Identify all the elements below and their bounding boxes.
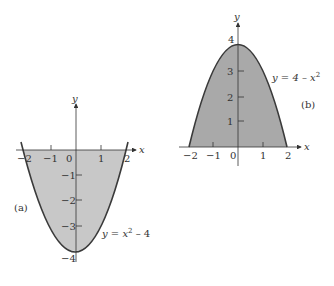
- y-tick-label-a: −1: [61, 170, 76, 181]
- y-tick-label-b: 2: [227, 92, 233, 103]
- figure-label-b: (b): [301, 99, 315, 110]
- x-axis-label-a: x: [139, 144, 145, 155]
- x-axis-label-b: x: [304, 141, 310, 152]
- diagram-canvas: x y −2 −1 0 1 2 −1 −2 −3 −4 (a) y = x2 –…: [0, 0, 334, 286]
- equation-a-base: y = x: [101, 228, 128, 239]
- figure-a: x y −2 −1 0 1 2 −1 −2 −3 −4 (a) y = x2 –…: [14, 93, 150, 264]
- x-tick-label-b: 0: [230, 150, 236, 161]
- x-tick-label-a: 1: [98, 153, 104, 164]
- equation-b: y = 4 – x2: [271, 71, 320, 83]
- x-tick-label-a: −2: [17, 153, 32, 164]
- figure-label-a: (a): [14, 202, 28, 213]
- x-tick-label-b: −1: [206, 150, 221, 161]
- y-tick-label-a: −3: [61, 221, 76, 232]
- equation-a-suffix: – 4: [133, 228, 151, 239]
- x-tick-label-b: 2: [285, 150, 291, 161]
- y-tick-label-b: 1: [227, 116, 233, 127]
- y-tick-label-b: 4: [228, 34, 234, 45]
- figure-b: x y −2 −1 0 1 2 1 2 3 4 (b) y = 4 – x2: [179, 11, 320, 166]
- x-tick-label-a: 2: [124, 153, 130, 164]
- x-tick-label-a: −1: [43, 153, 58, 164]
- x-tick-label-b: −2: [183, 150, 198, 161]
- equation-b-exponent: 2: [316, 71, 320, 79]
- y-tick-label-a: −4: [61, 253, 76, 264]
- x-tick-label-b: 1: [260, 150, 266, 161]
- equation-b-base: y = 4 – x: [271, 72, 316, 83]
- y-tick-label-a: −2: [61, 195, 76, 206]
- equation-a: y = x2 – 4: [101, 227, 150, 239]
- y-axis-label-b: y: [233, 11, 240, 22]
- y-axis-label-a: y: [71, 93, 78, 104]
- y-tick-label-b: 3: [227, 66, 233, 77]
- x-tick-label-a: 0: [66, 153, 72, 164]
